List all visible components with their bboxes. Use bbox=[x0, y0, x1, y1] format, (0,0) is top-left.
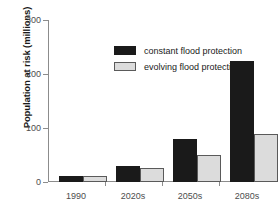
y-tick-mark bbox=[43, 128, 48, 129]
y-tick-mark bbox=[43, 74, 48, 75]
bar-chart-figure: Population at risk (millions) 0 100 200 … bbox=[0, 0, 280, 216]
plot-area: 0 100 200 300 1990 2020s 2050s 2080s bbox=[48, 20, 276, 182]
bar-constant-2020s bbox=[116, 166, 140, 182]
legend-label-evolving: evolving flood protection bbox=[144, 62, 241, 72]
bar-evolving-2020s bbox=[140, 168, 164, 182]
bar-evolving-2050s bbox=[197, 155, 221, 182]
y-tick-label: 300 bbox=[26, 15, 41, 25]
x-tick-label-2080s: 2080s bbox=[235, 191, 260, 201]
chart-legend: constant flood protection evolving flood… bbox=[114, 44, 242, 76]
y-tick-label: 200 bbox=[26, 69, 41, 79]
legend-label-constant: constant flood protection bbox=[144, 46, 242, 56]
y-axis-line bbox=[48, 20, 49, 182]
x-tick-mark bbox=[219, 182, 220, 186]
x-tick-mark bbox=[105, 182, 106, 186]
legend-swatch-icon-evolving bbox=[114, 62, 136, 71]
bar-evolving-1990 bbox=[83, 176, 107, 182]
y-tick-mark bbox=[43, 182, 48, 183]
y-tick-label: 0 bbox=[36, 177, 41, 187]
y-tick-label: 100 bbox=[26, 123, 41, 133]
x-tick-mark bbox=[162, 182, 163, 186]
legend-entry-evolving: evolving flood protection bbox=[114, 60, 242, 73]
y-tick-mark bbox=[43, 20, 48, 21]
bar-evolving-2080s bbox=[254, 134, 278, 182]
x-tick-label-1990: 1990 bbox=[66, 191, 86, 201]
bar-constant-1990 bbox=[59, 176, 83, 182]
legend-swatch-icon-constant bbox=[114, 46, 136, 55]
legend-entry-constant: constant flood protection bbox=[114, 44, 242, 57]
bar-constant-2080s bbox=[230, 61, 254, 183]
x-tick-label-2020s: 2020s bbox=[121, 191, 146, 201]
bar-constant-2050s bbox=[173, 139, 197, 182]
x-tick-label-2050s: 2050s bbox=[178, 191, 203, 201]
